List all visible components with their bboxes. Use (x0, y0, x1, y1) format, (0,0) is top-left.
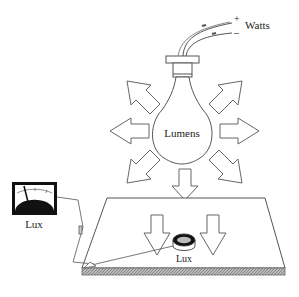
bulb-glass (153, 77, 213, 164)
arrow-up-right-icon (209, 81, 242, 114)
arrow-down-icon (172, 169, 198, 200)
power-leads (178, 22, 232, 57)
lux-sensor (173, 234, 195, 251)
arrow-up-left-icon (127, 81, 160, 114)
bulb-cap-plate (166, 56, 199, 63)
watts-label: Watts (245, 19, 270, 31)
arrow-left-icon (110, 118, 149, 144)
lighting-measurement-diagram: + – Watts Lumens (0, 0, 299, 297)
light-bulb (153, 56, 213, 164)
arrow-down-right-icon (209, 150, 242, 183)
plus-sign: + (234, 13, 240, 24)
arrow-down-left-icon (127, 150, 160, 183)
sensor-lux-label: Lux (176, 253, 192, 264)
bulb-neck (173, 63, 192, 77)
arrow-right-icon (220, 118, 259, 144)
surface-edge (82, 268, 285, 275)
lux-meter (12, 182, 57, 215)
minus-sign: – (233, 27, 240, 38)
meter-lux-label: Lux (25, 218, 43, 230)
lumens-label: Lumens (164, 127, 199, 139)
